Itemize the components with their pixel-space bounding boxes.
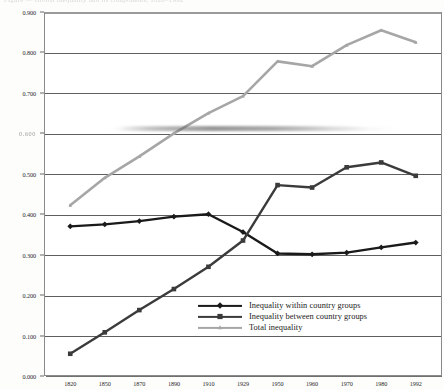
- data-point-marker: [378, 245, 384, 251]
- legend-item: Total inequality: [198, 322, 367, 333]
- data-point-marker: [344, 250, 350, 256]
- y-axis-tick-label: 0.700: [2, 89, 36, 96]
- ghost-title-text: Figure — Global inequality and its compo…: [4, 0, 184, 4]
- legend-item: Inequality between country groups: [198, 311, 367, 322]
- series-diamond: [67, 211, 418, 257]
- data-point-marker: [136, 218, 142, 224]
- y-axis-tick-label: 0.400: [2, 211, 36, 218]
- series-line: [70, 30, 416, 205]
- data-point-marker: [218, 325, 223, 329]
- legend-marker-square-icon: [214, 311, 226, 322]
- x-axis-tick-label: 1929: [237, 380, 249, 387]
- data-point-marker: [413, 240, 419, 246]
- data-point-marker: [310, 185, 315, 190]
- y-axis-tick-label: 0.500: [2, 170, 36, 177]
- data-point-marker: [68, 351, 73, 356]
- y-axis-tick-label: 0.900: [2, 9, 36, 16]
- x-axis-tick-label: 1950: [272, 380, 284, 387]
- x-axis-tick-label: 1870: [133, 380, 145, 387]
- chart-legend: Inequality within country groupsInequali…: [196, 299, 369, 334]
- x-axis-tick-label: 1820: [64, 380, 76, 387]
- data-point-marker: [241, 238, 246, 243]
- cropped-title-strip: Figure — Global inequality and its compo…: [0, 0, 444, 7]
- y-axis-tick-label: 0.000: [2, 373, 36, 380]
- legend-swatch-diamond-icon: [198, 300, 242, 311]
- y-axis-tick-label: 0.100: [2, 332, 36, 339]
- data-point-marker: [217, 314, 222, 319]
- legend-label: Inequality between country groups: [242, 312, 367, 321]
- x-axis-tick-label: 1850: [99, 380, 111, 387]
- scanned-chart-page: Figure — Global inequality and its compo…: [0, 0, 444, 390]
- x-axis-tick-label: 1970: [341, 380, 353, 387]
- data-point-marker: [206, 265, 211, 270]
- x-axis-tick-label: 1980: [375, 380, 387, 387]
- legend-swatch-square-icon: [198, 311, 242, 322]
- bottom-rule: [46, 376, 442, 377]
- data-point-marker: [413, 174, 418, 179]
- data-point-marker: [102, 330, 107, 335]
- data-point-marker: [102, 221, 108, 227]
- data-point-marker: [171, 214, 177, 220]
- x-axis-tick-label: 1890: [168, 380, 180, 387]
- y-axis-tick-label: 0.300: [2, 251, 36, 258]
- data-point-marker: [275, 183, 280, 188]
- x-axis-tick-label: 1992: [410, 380, 422, 387]
- legend-marker-diamond-icon: [214, 300, 226, 311]
- legend-marker-triangle-icon: [214, 322, 226, 333]
- data-point-marker: [172, 287, 177, 292]
- data-point-marker: [309, 251, 315, 257]
- y-axis-tick-label: 0.200: [2, 292, 36, 299]
- y-axis-tick-label: 0.800: [2, 49, 36, 56]
- data-point-marker: [67, 223, 73, 229]
- data-point-marker: [379, 160, 384, 165]
- legend-swatch-triangle-icon: [198, 322, 242, 333]
- legend-label: Total inequality: [242, 323, 302, 332]
- data-point-marker: [137, 308, 142, 313]
- y-axis-tick-label: 0.600: [2, 130, 36, 137]
- series-triangle: [68, 28, 417, 206]
- x-axis-tick-label: 1960: [306, 380, 318, 387]
- legend-item: Inequality within country groups: [198, 300, 367, 311]
- data-point-marker: [344, 165, 349, 170]
- legend-label: Inequality within country groups: [242, 301, 361, 310]
- data-point-marker: [217, 302, 224, 309]
- x-axis-tick-label: 1910: [202, 380, 214, 387]
